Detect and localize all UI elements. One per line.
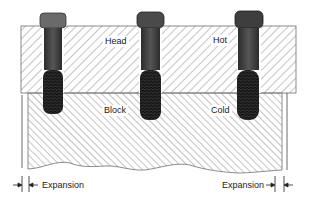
expansion-marker-left [13, 176, 38, 192]
expansion-marker-right [266, 176, 293, 192]
bolt-3 [235, 11, 263, 120]
bolt-1 [40, 13, 66, 114]
hot-label: Hot [211, 35, 229, 46]
expansion-left-label: Expansion [42, 180, 84, 191]
bolted-joint-diagram [0, 0, 309, 203]
head-label: Head [103, 36, 129, 47]
cold-label: Cold [209, 105, 232, 116]
bolt-2 [137, 12, 164, 120]
block-label: Block [102, 105, 128, 116]
expansion-right-label: Expansion [222, 180, 264, 191]
